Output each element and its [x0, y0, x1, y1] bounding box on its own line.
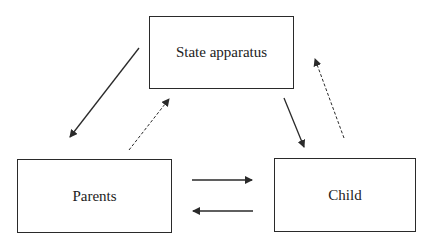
- arrows-layer: [0, 0, 432, 245]
- arrow-parents-to-state-dashed: [129, 99, 169, 150]
- arrow-state-to-parents: [70, 48, 139, 137]
- arrow-child-to-state-dashed: [315, 59, 344, 138]
- arrow-state-to-child: [284, 98, 304, 147]
